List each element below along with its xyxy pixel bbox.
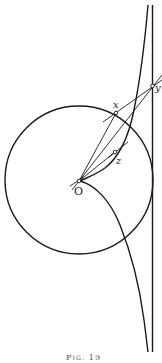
label-z: z <box>116 156 121 166</box>
figure-caption: Fig. 19 <box>66 354 101 362</box>
label-x: x <box>113 100 119 110</box>
curve-lower-branch <box>80 181 148 352</box>
label-origin: O <box>74 186 83 197</box>
point-z <box>113 150 117 154</box>
line-O-to-y <box>72 75 162 190</box>
curve-upper-branch <box>80 5 148 181</box>
diagram-svg <box>0 0 162 363</box>
label-y: y <box>155 83 161 93</box>
point-x <box>114 111 118 115</box>
point-y <box>151 84 155 88</box>
figure-canvas: x y z O Fig. 19 <box>0 0 162 363</box>
line-O-to-x <box>79 113 116 181</box>
point-O <box>77 179 81 183</box>
